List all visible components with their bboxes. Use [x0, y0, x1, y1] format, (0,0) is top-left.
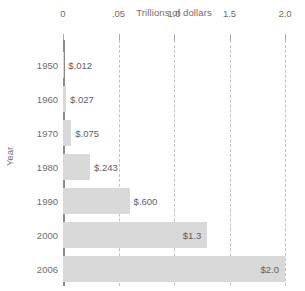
bar [63, 52, 64, 78]
bar-value-label: $1.3 [183, 230, 202, 241]
bar-row: 1980$.243 [63, 154, 285, 180]
bar-value-label: $.012 [68, 60, 92, 71]
bar-value-label: $.600 [134, 196, 158, 207]
bar-chart-figure: Trillions of dollars Year 0.051.01.52.0 … [0, 0, 305, 291]
x-tick-mark [63, 34, 64, 40]
y-category-label: 1970 [37, 128, 58, 139]
y-category-label: 1950 [37, 60, 58, 71]
bar-value-label: $.243 [94, 162, 118, 173]
bar-row: 1990$.600 [63, 188, 285, 214]
plot-area: 0.051.01.52.0 1950$.0121960$.0271970$.07… [63, 48, 285, 286]
bar-value-label: $2.0 [261, 264, 280, 275]
x-tick-mark [119, 34, 120, 40]
y-category-label: 1980 [37, 162, 58, 173]
x-tick-label: 1.5 [223, 8, 236, 19]
y-category-label: 1990 [37, 196, 58, 207]
x-tick-mark [230, 34, 231, 40]
bar [63, 256, 285, 282]
y-category-label: 2006 [37, 264, 58, 275]
bar-row: 2000$1.3 [63, 222, 285, 248]
x-tick-label: 0 [60, 8, 65, 19]
bar [63, 154, 90, 180]
x-tick-mark [174, 34, 175, 40]
bar [63, 86, 66, 112]
bar-row: 2006$2.0 [63, 256, 285, 282]
y-category-label: 1960 [37, 94, 58, 105]
y-category-label: 2000 [37, 230, 58, 241]
x-tick-label: 2.0 [278, 8, 291, 19]
bar-row: 1950$.012 [63, 52, 285, 78]
bar-value-label: $.075 [75, 128, 99, 139]
gridline [285, 40, 286, 286]
bar-row: 1970$.075 [63, 120, 285, 146]
y-axis-title: Year [4, 137, 15, 177]
bar [63, 120, 71, 146]
x-tick-label: .05 [112, 8, 125, 19]
bar [63, 188, 130, 214]
x-tick-label: 1.0 [167, 8, 180, 19]
x-tick-mark [285, 34, 286, 40]
bar-row: 1960$.027 [63, 86, 285, 112]
bar-value-label: $.027 [70, 94, 94, 105]
